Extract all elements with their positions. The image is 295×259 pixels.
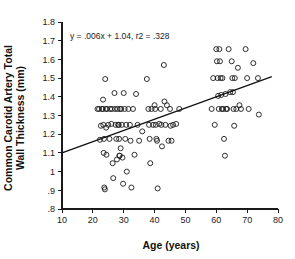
y-axis-title-line-1: Common Carotid Artery Total: [2, 45, 14, 191]
regression-equation-annotation: y = .006x + 1.04, r2 = .328: [70, 31, 170, 41]
data-point-marker: [217, 59, 222, 64]
data-point-marker: [110, 161, 115, 166]
data-point-marker: [137, 138, 142, 143]
data-point-marker: [128, 138, 133, 143]
scatter-plot-figure: .8.911.11.21.31.41.51.61.71.8 1020304050…: [0, 0, 295, 259]
data-point-marker: [174, 121, 179, 126]
data-point-marker: [103, 77, 108, 82]
tick-marks: [58, 22, 278, 213]
x-tick-label: 30: [119, 215, 129, 225]
y-tick-label: .8: [47, 204, 55, 214]
data-point-marker: [127, 122, 132, 127]
data-point-marker: [246, 106, 251, 111]
y-axis-tick-labels: .8.911.11.21.31.41.51.61.71.8: [42, 17, 55, 214]
data-point-marker: [111, 176, 116, 181]
y-tick-label: 1.3: [42, 111, 55, 121]
data-point-marker: [123, 136, 128, 141]
x-tick-label: 20: [88, 215, 98, 225]
y-tick-label: 1.7: [42, 36, 55, 46]
y-tick-label: 1.6: [42, 55, 55, 65]
x-tick-label: 80: [273, 215, 283, 225]
y-tick-label: 1.1: [42, 148, 55, 158]
y-tick-label: 1.5: [42, 73, 55, 83]
data-point-marker: [118, 146, 123, 151]
data-point-marker: [222, 136, 227, 141]
data-point-marker: [212, 122, 217, 127]
x-tick-label: 10: [57, 215, 67, 225]
y-tick-label: 1.4: [42, 92, 55, 102]
regression-line: [62, 77, 272, 153]
data-point-marker: [107, 136, 112, 141]
data-point-marker: [101, 97, 106, 102]
x-tick-label: 70: [242, 215, 252, 225]
axes: [62, 22, 278, 209]
x-tick-label: 40: [150, 215, 160, 225]
data-point-marker: [251, 61, 256, 66]
regression-fit-line: [62, 77, 272, 153]
y-tick-label: 1.8: [42, 17, 55, 27]
x-axis-title: Age (years): [142, 239, 199, 251]
data-point-marker: [168, 106, 173, 111]
x-axis-tick-labels: 1020304050607080: [57, 215, 283, 225]
y-axis-title-line-2: Wall Thickness (mm): [14, 66, 26, 170]
data-point-marker: [112, 91, 117, 96]
data-point-marker: [226, 47, 231, 52]
data-point-marker: [232, 123, 237, 128]
data-point-marker: [132, 152, 137, 157]
data-point-marker: [222, 153, 227, 158]
data-point-marker: [147, 136, 152, 141]
data-point-marker: [243, 47, 248, 52]
data-point-marker: [245, 76, 250, 81]
y-tick-label: 1: [50, 167, 55, 177]
data-point-marker: [169, 138, 174, 143]
data-point-marker: [121, 91, 126, 96]
data-point-marker: [158, 106, 163, 111]
x-tick-label: 50: [180, 215, 190, 225]
y-tick-label: .9: [47, 186, 55, 196]
data-point-marker: [161, 63, 166, 68]
data-point-marker: [235, 65, 240, 70]
y-tick-label: 1.2: [42, 129, 55, 139]
data-point-marker: [124, 169, 129, 174]
chart-canvas: .8.911.11.21.31.41.51.61.71.8 1020304050…: [0, 0, 295, 259]
data-point-marker: [129, 185, 134, 190]
data-point-marker: [209, 106, 214, 111]
data-point-marker: [140, 129, 145, 134]
data-point-marker: [255, 76, 260, 81]
data-point-marker: [217, 47, 222, 52]
data-point-marker: [134, 92, 139, 97]
data-points: [95, 47, 261, 192]
data-point-marker: [159, 144, 164, 149]
data-point-marker: [144, 77, 149, 82]
data-point-marker: [155, 186, 160, 191]
data-point-marker: [121, 181, 126, 186]
x-tick-label: 60: [211, 215, 221, 225]
data-point-marker: [256, 112, 261, 117]
data-point-marker: [229, 59, 234, 64]
data-point-marker: [148, 161, 153, 166]
